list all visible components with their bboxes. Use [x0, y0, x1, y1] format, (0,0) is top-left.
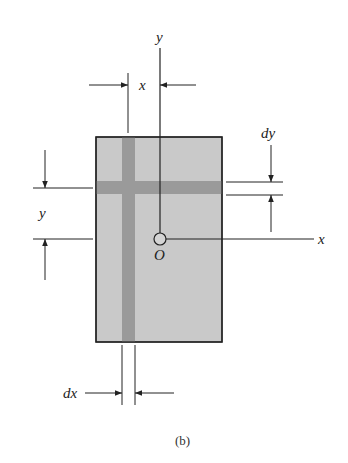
y-axis-label: y: [154, 29, 163, 45]
figure-caption: (b): [175, 433, 190, 448]
dx-label: dx: [63, 385, 78, 401]
y-distance-label: y: [37, 205, 46, 221]
origin-label: O: [154, 247, 165, 263]
horizontal-strip-dy: [96, 181, 222, 194]
x-axis-label: x: [317, 231, 325, 247]
dy-label: dy: [261, 125, 276, 141]
x-distance-label: x: [138, 77, 146, 93]
vertical-strip-dx: [122, 137, 135, 342]
moment-of-inertia-diagram: y O x x y dy dx (b): [0, 0, 348, 463]
origin-centroid-marker: [154, 233, 166, 245]
